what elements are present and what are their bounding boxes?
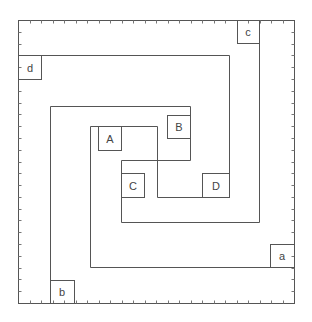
frame-ticks (19, 21, 295, 304)
path-d-to-D (19, 56, 295, 268)
label-C: C (129, 180, 137, 192)
label-B: B (175, 121, 182, 133)
outer-frame (19, 21, 295, 304)
label-A: A (106, 133, 114, 145)
label-d: d (27, 62, 33, 74)
label-c: c (245, 26, 251, 38)
label-a: a (279, 250, 286, 262)
label-D: D (212, 180, 220, 192)
path-b-to-B (51, 21, 260, 304)
spiral-diagram: d c a b A B C D (0, 0, 312, 322)
label-b: b (59, 286, 65, 298)
